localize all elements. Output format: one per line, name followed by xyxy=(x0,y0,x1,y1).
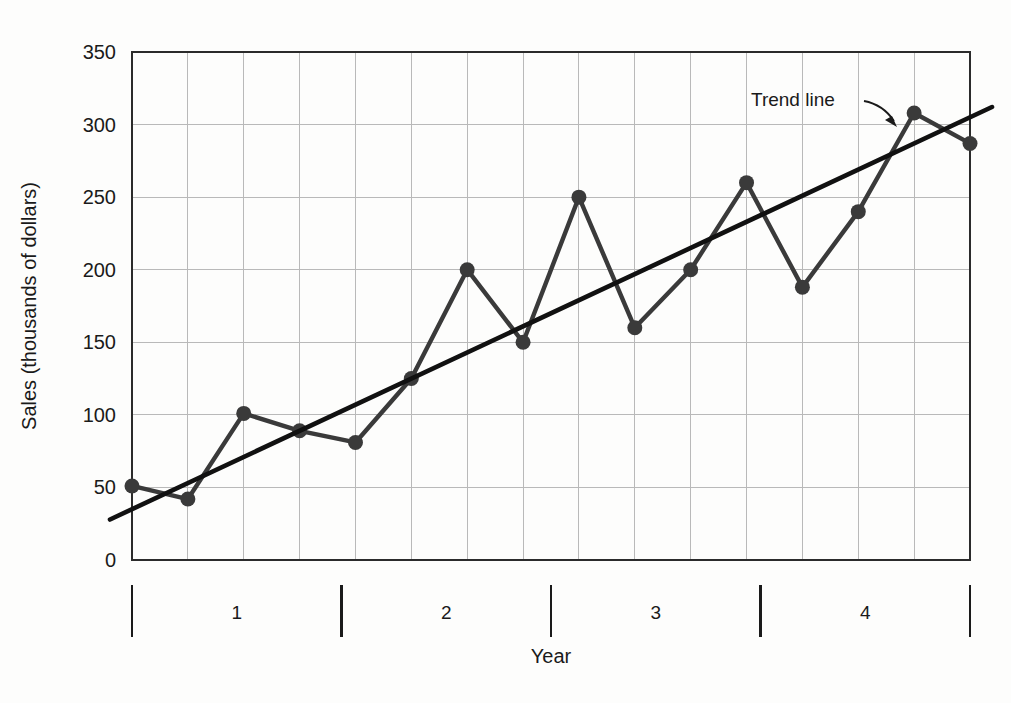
sales-data-markers xyxy=(125,105,978,506)
y-axis-tick-label: 300 xyxy=(83,114,116,136)
sales-line-path xyxy=(132,113,970,499)
sales-data-point xyxy=(627,320,642,335)
sales-data-point xyxy=(795,280,810,295)
y-axis-tick-label: 150 xyxy=(83,331,116,353)
chart-page: 050100150200250300350 1234 Year Sales (t… xyxy=(0,0,1011,703)
year-group-label: 2 xyxy=(441,602,452,623)
sales-data-point xyxy=(683,262,698,277)
y-axis-tick-label: 200 xyxy=(83,259,116,281)
year-group-label: 4 xyxy=(860,602,871,623)
sales-data-point xyxy=(851,204,866,219)
sales-data-point xyxy=(963,136,978,151)
x-axis-title: Year xyxy=(531,645,572,667)
grid-lines xyxy=(132,52,970,560)
y-axis-tick-label: 350 xyxy=(83,41,116,63)
chart-canvas: 050100150200250300350 1234 Year Sales (t… xyxy=(0,0,1011,703)
sales-data-point xyxy=(348,435,363,450)
sales-data-point xyxy=(516,335,531,350)
annotation-arrow-head xyxy=(885,116,897,127)
sales-series xyxy=(125,105,978,506)
year-group-label: 1 xyxy=(231,602,242,623)
y-axis-tick-label: 100 xyxy=(83,404,116,426)
sales-data-point xyxy=(739,175,754,190)
y-axis-tick-label: 250 xyxy=(83,186,116,208)
trend-line-annotation: Trend line xyxy=(751,89,897,127)
y-axis-title: Sales (thousands of dollars) xyxy=(18,182,40,430)
y-axis-tick-labels: 050100150200250300350 xyxy=(83,41,116,571)
sales-data-point xyxy=(125,478,140,493)
sales-trend-chart: 050100150200250300350 1234 Year Sales (t… xyxy=(0,0,1011,703)
sales-data-point xyxy=(460,262,475,277)
sales-data-point xyxy=(236,406,251,421)
trend-line-annotation-label: Trend line xyxy=(751,89,835,110)
plot-area-border xyxy=(132,52,970,560)
year-group-label: 3 xyxy=(650,602,661,623)
y-axis-tick-label: 50 xyxy=(94,476,116,498)
sales-data-point xyxy=(571,190,586,205)
sales-data-point xyxy=(907,105,922,120)
y-axis-tick-label: 0 xyxy=(105,549,116,571)
year-separator-ticks xyxy=(132,585,970,637)
trend-line-path xyxy=(110,107,992,519)
sales-data-point xyxy=(180,492,195,507)
